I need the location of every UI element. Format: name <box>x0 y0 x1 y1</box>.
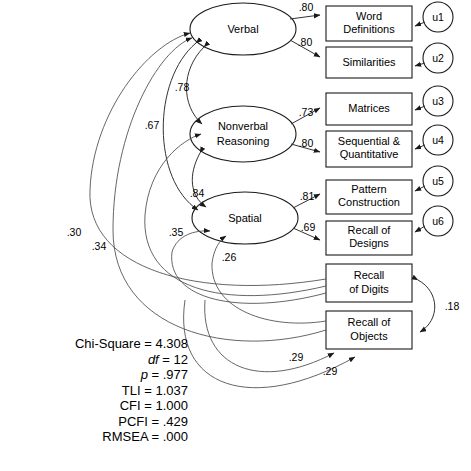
arc-nonverbal-spatial <box>192 153 206 207</box>
label-recall-of-designs-l1: Recall of <box>348 224 392 236</box>
arrow-u5-to-box <box>415 186 425 191</box>
path-recall-objects-to-verbal <box>113 38 326 341</box>
label-similarities: Similarities <box>342 56 396 68</box>
label-recall-of-designs-l2: Designs <box>349 237 389 249</box>
stat-pcfi: PCFI = .429 <box>8 414 188 430</box>
label-spatial: Spatial <box>228 212 262 224</box>
label-nonverbal-l1: Nonverbal <box>218 120 268 132</box>
label-sequential-quantitative-l2: Quantitative <box>340 148 399 160</box>
label-u5: u5 <box>432 175 444 187</box>
arrow-u4-to-box <box>415 145 425 149</box>
coef-nonverbal-spatial: .84 <box>190 187 205 199</box>
stat-p: p = .977 <box>8 367 188 383</box>
stat-tli: TLI = 1.037 <box>8 383 188 399</box>
label-recall-of-objects-l2: Objects <box>350 330 388 342</box>
arrow-u6-to-box <box>415 226 425 232</box>
arrow-u1-to-box <box>415 22 425 26</box>
stat-chi-square: Chi-Square = 4.308 <box>8 336 188 352</box>
stat-rmsea: RMSEA = .000 <box>8 429 188 445</box>
figure-canvas: Word Definitions Similarities Matrices S… <box>0 0 471 471</box>
coef-34: .34 <box>92 240 107 252</box>
stat-df-symbol: df <box>148 352 159 367</box>
coef-loading-matrices: .73 <box>299 106 314 118</box>
label-matrices: Matrices <box>348 102 390 114</box>
residual-correlation-arc: .18 <box>418 280 459 332</box>
label-sequential-quantitative-l1: Sequential & <box>338 135 401 147</box>
label-u1: u1 <box>432 11 444 23</box>
stat-df-value: = 12 <box>159 352 188 367</box>
path-recall-objects-to-spatial <box>212 236 326 323</box>
fit-statistics-block: Chi-Square = 4.308 df = 12 p = .977 TLI … <box>8 336 188 445</box>
coef-loading-similarities: .80 <box>298 36 313 48</box>
coef-loading-recall-designs: .69 <box>301 221 316 233</box>
coef-35: .35 <box>169 226 184 238</box>
coef-30: .30 <box>67 226 82 238</box>
stat-p-value: = .977 <box>148 367 188 382</box>
path-recall-digits-to-verbal <box>90 33 326 285</box>
arrow-u2-to-box <box>415 63 425 66</box>
arrow-verbal-word-definitions <box>290 15 320 19</box>
coef-26: .26 <box>222 251 237 263</box>
coef-loading-pattern-construction: .81 <box>300 190 315 202</box>
label-nonverbal-l2: Reasoning <box>217 135 270 147</box>
label-recall-of-objects-l1: Recall of <box>348 316 392 328</box>
coef-loading-seq-quant: .80 <box>299 137 314 149</box>
coef-verbal-nonverbal: .78 <box>175 81 190 93</box>
label-u3: u3 <box>432 95 444 107</box>
arrow-u3-to-box <box>415 106 425 110</box>
label-word-definitions-l1: Word <box>356 10 382 22</box>
loading-coefficient-labels: .80 .80 .73 .80 .81 .69 <box>298 1 316 233</box>
label-recall-of-digits-l1: Recall <box>354 269 385 281</box>
label-recall-of-digits-l2: of Digits <box>349 283 389 295</box>
coef-29-a: .29 <box>289 351 304 363</box>
coef-29-b: .29 <box>323 365 338 377</box>
label-pattern-construction-l1: Pattern <box>351 183 386 195</box>
coef-loading-word-definitions: .80 <box>299 1 314 13</box>
arc-digits-objects-residual <box>418 280 435 332</box>
stat-df: df = 12 <box>8 352 188 368</box>
label-pattern-construction-l2: Construction <box>338 196 400 208</box>
label-u6: u6 <box>432 215 444 227</box>
label-u2: u2 <box>432 52 444 64</box>
label-verbal: Verbal <box>227 23 258 35</box>
coef-verbal-spatial: .67 <box>145 119 160 131</box>
latent-factor-ellipses: Verbal Nonverbal Reasoning Spatial <box>190 3 298 244</box>
coef-18: .18 <box>445 300 460 312</box>
stat-p-symbol: p <box>141 367 148 382</box>
label-u4: u4 <box>432 134 444 146</box>
stat-cfi: CFI = 1.000 <box>8 398 188 414</box>
path-29-a <box>205 300 334 372</box>
label-word-definitions-l2: Definitions <box>343 23 395 35</box>
error-term-circles: u1 u2 u3 u4 u5 u6 <box>423 2 453 236</box>
